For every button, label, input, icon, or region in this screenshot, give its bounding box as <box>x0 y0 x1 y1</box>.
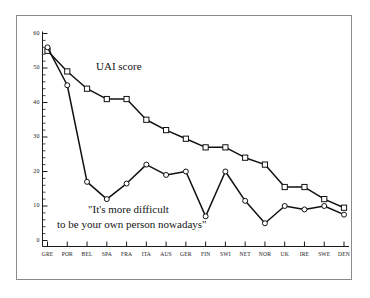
y-tick-label: 30 <box>24 133 40 139</box>
annotation-quote-line-1: "It's more difficult <box>88 203 169 215</box>
x-tick-label-den: DEN <box>332 251 356 257</box>
chart-figure: 0102030405060 GREPORBELSPAFRAITAAUSGERFI… <box>0 0 370 298</box>
annotation-uai-score: UAI score <box>96 60 142 72</box>
y-tick-label: 60 <box>24 30 40 36</box>
y-tick-label: 40 <box>24 99 40 105</box>
y-tick-label: 20 <box>24 168 40 174</box>
annotation-quote-line-2: to be your own person nowadays" <box>57 218 207 230</box>
y-tick-label: 50 <box>24 64 40 70</box>
data-series <box>45 45 347 226</box>
y-tick-label: 0 <box>24 237 40 243</box>
y-tick-label: 10 <box>24 202 40 208</box>
